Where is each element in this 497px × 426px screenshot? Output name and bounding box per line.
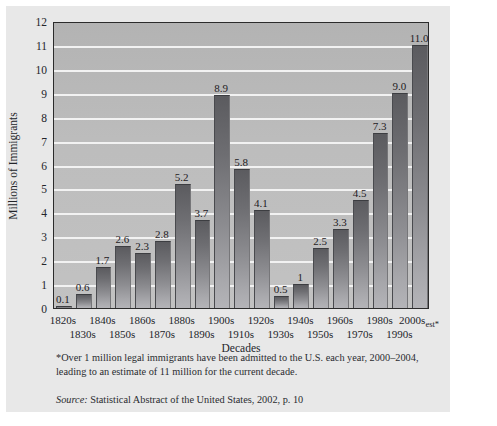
x-axis-tick-label: 1980s (366, 314, 392, 326)
y-axis-tick-label: 7 (41, 136, 47, 148)
gridline (54, 46, 428, 48)
bar (234, 169, 250, 308)
bar-value-label: 5.2 (167, 171, 197, 183)
bar-value-label: 0.5 (266, 283, 296, 295)
y-axis-tick-label: 6 (41, 160, 47, 172)
bar-value-label: 7.3 (365, 120, 395, 132)
source-citation: Statistical Abstract of the United State… (88, 394, 304, 405)
bar (96, 267, 112, 308)
gridline (54, 70, 428, 72)
x-axis-tick-label: 1940s (287, 314, 313, 326)
bar (373, 133, 389, 308)
bar-value-label: 2.5 (305, 235, 335, 247)
y-axis-tick-label: 2 (41, 255, 47, 267)
x-axis-tick-label: 1840s (89, 314, 115, 326)
bar-value-label: 0.6 (68, 281, 98, 293)
bar-value-label: 1 (285, 271, 315, 283)
bar-value-label: 1.7 (87, 254, 117, 266)
y-axis-tick-label: 3 (41, 231, 47, 243)
x-axis-tick-label: 1910s (228, 328, 254, 340)
bar (353, 200, 369, 308)
x-axis-tick-label: 1900s (208, 314, 234, 326)
y-axis-tick-label: 1 (41, 279, 47, 291)
bar (214, 95, 230, 308)
x-axis-tick-label: 1990s (386, 328, 412, 340)
chart-figure: Millions of Immigrants 0123456789101112 … (6, 6, 450, 412)
bar (56, 306, 72, 308)
bar-value-label: 5.8 (226, 156, 256, 168)
bar (333, 229, 349, 308)
bar-value-label: 2.3 (127, 240, 157, 252)
bar-value-label: 8.9 (206, 82, 236, 94)
bar (313, 248, 329, 308)
x-axis-tick-label: 1850s (109, 328, 135, 340)
bar (76, 294, 92, 308)
source-label: Source: (56, 394, 88, 405)
x-axis-tick-label: 1880s (168, 314, 194, 326)
y-axis-tick-label: 8 (41, 112, 47, 124)
bar (135, 253, 151, 308)
x-axis-tick-label: 1930s (267, 328, 293, 340)
bar-value-label: 11.0 (404, 32, 434, 44)
x-axis-tick-label: 1970s (347, 328, 373, 340)
x-axis-tick-label: 1830s (70, 328, 96, 340)
gridline (54, 94, 428, 96)
plot-region: Millions of Immigrants 0123456789101112 … (53, 22, 429, 309)
y-axis-tick-label: 4 (41, 207, 47, 219)
y-axis-tick-label: 10 (36, 64, 48, 76)
bar (392, 93, 408, 308)
bar (274, 296, 290, 308)
bar-value-label: 3.7 (186, 207, 216, 219)
gridline (54, 118, 428, 120)
x-axis-tick-label: 1950s (307, 328, 333, 340)
bar-value-label: 4.5 (345, 187, 375, 199)
y-axis-tick-label: 5 (41, 183, 47, 195)
bar-value-label: 0.1 (48, 293, 78, 305)
y-axis-tick-label: 12 (36, 16, 48, 28)
x-axis-tick-label: 1920s (248, 314, 274, 326)
bar-value-label: 2.8 (147, 228, 177, 240)
x-axis-tick-label: 1870s (149, 328, 175, 340)
bar (115, 246, 131, 308)
y-axis-tick-label: 0 (41, 303, 47, 315)
y-axis-label: Millions of Immigrants (7, 112, 19, 219)
source-note: Source: Statistical Abstract of the Unit… (56, 394, 428, 405)
bar (155, 241, 171, 308)
bar (195, 220, 211, 308)
y-axis-tick-label: 11 (36, 40, 47, 52)
bar-value-label: 4.1 (246, 197, 276, 209)
y-axis-tick-label: 9 (41, 88, 47, 100)
x-axis-tick-label: 1860s (129, 314, 155, 326)
x-axis-tick-label: 1890s (188, 328, 214, 340)
bar-value-label: 3.3 (325, 216, 355, 228)
bar (412, 45, 428, 308)
x-axis-tick-label: 1820s (50, 314, 76, 326)
footnote: *Over 1 million legal immigrants have be… (56, 351, 428, 379)
bar (293, 284, 309, 308)
bar (175, 184, 191, 308)
x-axis-tick-superscript: est* (425, 319, 439, 329)
x-axis-tick-label: 2000sest* (399, 314, 439, 329)
x-axis-tick-label: 1960s (327, 314, 353, 326)
bar-value-label: 9.0 (384, 80, 414, 92)
